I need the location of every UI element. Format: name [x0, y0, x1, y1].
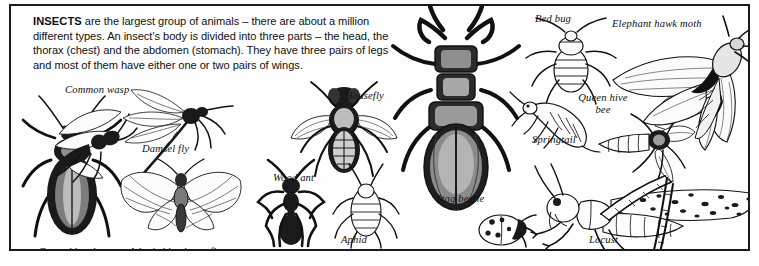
figure-stag-beetle	[391, 12, 521, 222]
intro-paragraph: INSECTS are the largest group of animals…	[33, 14, 393, 73]
caption-ladybird: Ladybird	[472, 249, 512, 251]
page-background-tint	[0, 255, 759, 266]
stag-beetle-drawing	[391, 12, 521, 222]
locust-drawing	[533, 164, 750, 251]
caption-bed-bug: Bed bug	[535, 13, 571, 25]
caption-springtail: Springtail	[532, 134, 576, 146]
caption-wood-ant: Wood ant	[273, 172, 314, 184]
caption-damsel-fly: Damsel fly	[142, 143, 189, 155]
adonis-blue-butterfly-drawing	[116, 164, 246, 244]
figure-locust	[533, 164, 750, 251]
caption-locust: Locust	[589, 234, 618, 246]
caption-adonis-blue-butterfly: Adonis blue butterfly	[129, 246, 221, 251]
ladybird-drawing	[476, 211, 536, 251]
insects-encyclopedia-page: INSECTS are the largest group of animals…	[0, 0, 759, 266]
caption-stag-beetle: Stag beetle	[436, 193, 484, 205]
elephant-hawk-moth-drawing	[603, 20, 750, 160]
caption-housefly: Housefly	[345, 90, 384, 102]
figure-adonis-blue-butterfly	[116, 164, 246, 244]
illustration-frame: INSECTS are the largest group of animals…	[9, 4, 750, 251]
figure-elephant-hawk-moth	[603, 20, 750, 160]
intro-body-text: are the largest group of animals – there…	[33, 15, 388, 71]
caption-ground-beetle: Ground beetle	[38, 246, 100, 251]
caption-aphid: Aphid	[341, 234, 367, 246]
intro-lead-word: INSECTS	[33, 15, 82, 27]
figure-ladybird	[476, 211, 536, 251]
caption-elephant-hawk-moth: Elephant hawk moth	[612, 18, 702, 30]
